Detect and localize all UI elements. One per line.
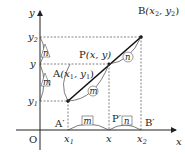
label-point-b: B(x2, y2)	[138, 5, 179, 18]
svg-text:n: n	[43, 48, 48, 58]
x-tick-x: x	[106, 133, 112, 144]
label-point-a: A(x1, y1)	[52, 68, 94, 81]
label-b-prime: B′	[145, 117, 155, 128]
svg-text:m: m	[90, 86, 98, 96]
x-axis-label: x	[176, 136, 182, 147]
y-tick-y2: y2	[27, 31, 38, 44]
svg-text:n: n	[124, 116, 129, 126]
label-point-p: P(x, y)	[79, 49, 111, 60]
tag-m-vertical: m	[41, 73, 51, 87]
label-a-prime: A′	[54, 118, 65, 129]
y-tick-y: y	[29, 58, 36, 69]
tag-m-horizontal: m	[82, 116, 93, 126]
tag-m-segment: m	[88, 86, 98, 96]
section-formula-diagram: m n m n m n y x O y2 y y1 x1 x x2 A(x1, …	[0, 0, 185, 156]
svg-text:m: m	[84, 116, 92, 126]
label-p-prime: P′	[112, 113, 122, 124]
tag-n-vertical: n	[41, 44, 50, 58]
origin-label: O	[29, 134, 37, 145]
x-tick-x1: x1	[64, 133, 74, 146]
svg-text:n: n	[125, 52, 130, 62]
y-axis-label: y	[28, 7, 35, 18]
tag-n-horizontal: n	[122, 116, 132, 126]
svg-text:m: m	[43, 77, 51, 87]
y-tick-y1: y1	[27, 95, 38, 108]
x-tick-x2: x2	[137, 133, 147, 146]
tag-n-segment: n	[123, 52, 133, 62]
